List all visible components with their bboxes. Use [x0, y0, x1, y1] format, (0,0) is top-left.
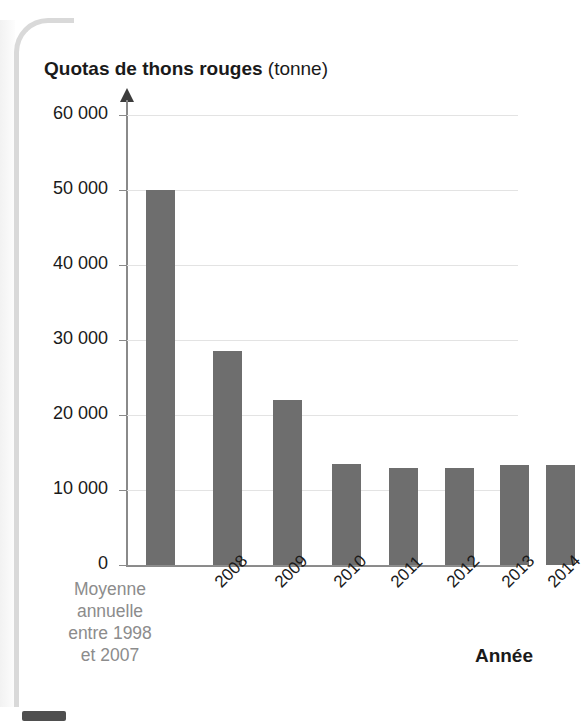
y-axis-tick-label: 60 000 — [0, 103, 108, 124]
gridline-60000 — [126, 115, 518, 116]
y-tick-50000 — [119, 190, 127, 191]
bar — [273, 400, 302, 565]
y-axis-tick-label: 40 000 — [0, 253, 108, 274]
y-tick-20000 — [119, 415, 127, 416]
bar — [332, 464, 361, 565]
y-tick-30000 — [119, 340, 127, 341]
bar — [146, 190, 175, 565]
gridline-50000 — [126, 190, 518, 191]
y-axis-tick-label: 20 000 — [0, 403, 108, 424]
gridline-20000 — [126, 415, 518, 416]
gridline-40000 — [126, 265, 518, 266]
y-axis-tick-label: 0 — [0, 553, 108, 574]
bar — [389, 468, 418, 565]
y-tick-10000 — [119, 490, 127, 491]
gridline-30000 — [126, 340, 518, 341]
y-axis-tick-label: 30 000 — [0, 328, 108, 349]
chart-title-unit: (tonne) — [268, 58, 328, 79]
x-axis-category-label-average: Moyenne annuelle entre 1998 et 2007 — [36, 578, 184, 666]
chart-title-main: Quotas de thons rouges — [44, 58, 263, 79]
chart-title: Quotas de thons rouges (tonne) — [44, 58, 328, 80]
y-tick-40000 — [119, 265, 127, 266]
y-tick-0 — [119, 565, 127, 566]
y-axis-tick-label: 50 000 — [0, 178, 108, 199]
x-axis-title: Année — [475, 645, 533, 667]
bar — [213, 351, 242, 565]
y-axis-tick-label: 10 000 — [0, 478, 108, 499]
y-tick-60000 — [119, 115, 127, 116]
